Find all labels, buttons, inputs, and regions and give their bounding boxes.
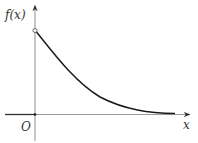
- x-axis-label: x: [183, 118, 190, 132]
- open-endpoint: [33, 29, 37, 33]
- y-axis-label: f(x): [4, 8, 26, 22]
- function-graph: f(x) O x: [0, 0, 198, 143]
- origin-point: [34, 113, 37, 116]
- function-curve: [37, 32, 176, 114]
- origin-label: O: [21, 120, 31, 134]
